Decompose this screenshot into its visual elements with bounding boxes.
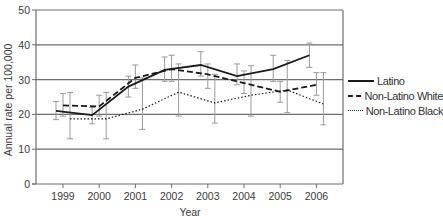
x-axis: 19992000200120022003200420052006 [51,184,328,202]
legend-label: Non-Latino Black [366,105,443,117]
y-tick-label: 40 [18,39,30,51]
x-tick-label: 2003 [196,190,220,202]
x-tick-label: 2000 [88,190,112,202]
data-lines [56,55,323,119]
x-tick-label: 2002 [160,190,184,202]
legend-item-latino: Latino [348,73,443,88]
legend-item-non-latino-white: Non-Latino White [348,88,443,103]
y-tick-label: 30 [18,74,30,86]
dashed-line-swatch-icon [348,95,361,97]
x-tick-label: 2006 [305,190,329,202]
y-axis-title: Annual rate per 100,000 [2,44,14,157]
y-tick-label: 0 [24,178,30,190]
dotted-line-swatch-icon [348,110,363,111]
solid-line-swatch-icon [348,80,374,82]
legend-label: Latino [377,75,405,87]
y-tick-label: 20 [18,108,30,120]
y-axis: 01020304050 [18,4,36,190]
series-line-non-latino-white [63,69,316,106]
gridlines [32,10,343,184]
x-tick-label: 1999 [51,190,75,202]
y-tick-label: 10 [18,143,30,155]
legend: Latino Non-Latino White Non-Latino Black [348,73,443,118]
legend-label: Non-Latino White [364,90,443,102]
x-tick-label: 2004 [232,190,256,202]
x-tick-label: 2005 [269,190,293,202]
x-tick-label: 2001 [124,190,148,202]
legend-item-non-latino-black: Non-Latino Black [348,103,443,118]
x-axis-title: Year [179,206,201,218]
y-tick-label: 50 [18,4,30,16]
